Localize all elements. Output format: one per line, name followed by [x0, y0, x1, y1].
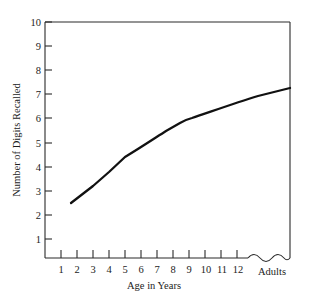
- x-tick-label-6: 6: [138, 264, 143, 275]
- x-tick-label-2: 2: [74, 264, 79, 275]
- x-tick-label-5: 5: [122, 264, 127, 275]
- y-tick-label-7: 7: [36, 89, 41, 100]
- y-tick-label-6: 6: [36, 113, 41, 124]
- x-tick-label-7: 7: [154, 264, 159, 275]
- y-tick-label-1: 1: [36, 234, 41, 245]
- y-tick-label-3: 3: [36, 186, 41, 197]
- y-tick-label-10: 10: [31, 17, 42, 28]
- x-tick-label-adults: Adults: [258, 266, 286, 277]
- x-tick-label-4: 4: [106, 264, 112, 275]
- y-tick-label-9: 9: [36, 41, 41, 52]
- y-tick-label-2: 2: [36, 210, 41, 221]
- x-tick-label-10: 10: [201, 264, 212, 275]
- x-tick-label-1: 1: [58, 264, 63, 275]
- x-tick-label-9: 9: [186, 264, 191, 275]
- chart-background: [0, 0, 309, 295]
- y-tick-label-4: 4: [36, 162, 42, 173]
- y-tick-label-8: 8: [36, 65, 41, 76]
- x-axis-title: Age in Years: [127, 280, 181, 291]
- chart-container: 10 9 8 7 6 5 4 3 2 1 1: [0, 0, 309, 295]
- x-tick-label-8: 8: [170, 264, 175, 275]
- x-tick-label-11: 11: [217, 264, 227, 275]
- x-tick-label-12: 12: [233, 264, 244, 275]
- x-tick-label-3: 3: [90, 264, 95, 275]
- y-axis-title: Number of Digits Recalled: [11, 83, 22, 197]
- digit-span-line-chart: 10 9 8 7 6 5 4 3 2 1 1: [0, 0, 309, 295]
- y-tick-label-5: 5: [36, 138, 41, 149]
